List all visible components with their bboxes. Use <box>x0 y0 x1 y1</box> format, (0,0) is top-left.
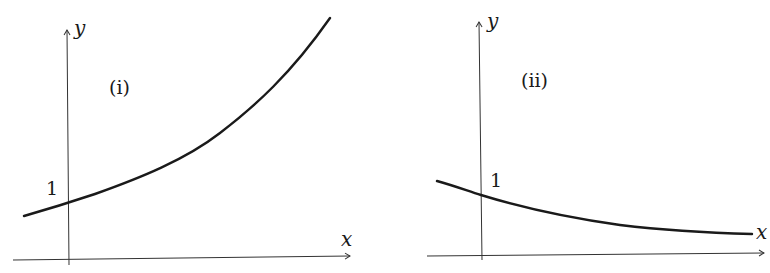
panel-label: (ii) <box>521 69 548 91</box>
x-axis-label: x <box>756 220 767 244</box>
x-axis <box>427 253 764 256</box>
panel-ii: y x 1 (ii) <box>427 9 767 260</box>
y-axis-label: y <box>73 16 86 40</box>
x-axis-label: x <box>341 227 352 251</box>
growth-curve <box>24 18 330 216</box>
x-axis <box>13 256 350 260</box>
decay-curve <box>437 181 752 234</box>
panel-label: (i) <box>109 76 130 98</box>
intercept-label: 1 <box>46 177 58 199</box>
panel-i: y x 1 (i) <box>13 16 352 265</box>
intercept-label: 1 <box>490 169 502 191</box>
y-axis <box>479 22 482 260</box>
y-axis <box>67 30 69 265</box>
y-axis-label: y <box>486 9 499 33</box>
figure-canvas: y x 1 (i) y x 1 (ii) <box>0 0 770 273</box>
